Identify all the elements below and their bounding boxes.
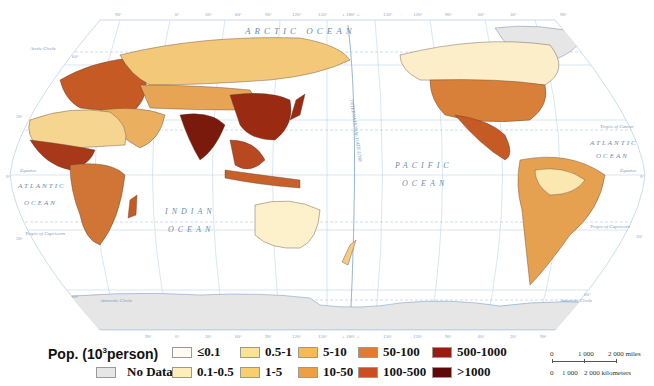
svg-text:120°: 120° [413,12,423,17]
svg-text:60°: 60° [478,334,485,339]
svg-text:± 180° ±: ± 180° ± [342,12,360,17]
svg-text:60°: 60° [235,334,242,339]
svg-text:ARCTIC OCEAN: ARCTIC OCEAN [244,26,356,36]
svg-text:150°: 150° [383,12,393,17]
scale-tick [584,359,585,363]
svg-text:60°: 60° [72,54,79,59]
usa [430,80,546,122]
svg-text:90°: 90° [445,12,452,17]
svg-text:30°: 30° [16,236,23,241]
svg-text:INDIAN: INDIAN [164,207,216,216]
svg-text:Equator: Equator [19,168,36,173]
svg-text:0°: 0° [175,334,180,339]
legend-item: ≤0.1 [172,344,220,360]
svg-text:OCEAN: OCEAN [24,199,57,207]
legend-label: ≤0.1 [197,344,220,360]
legend-label: 500-1000 [457,344,507,360]
scale-tick [552,359,553,363]
svg-text:OCEAN: OCEAN [402,179,448,188]
svg-text:60°: 60° [235,12,242,17]
svg-text:0°: 0° [6,174,11,179]
legend-item: >1000 [432,364,490,380]
svg-text:90°: 90° [115,12,122,17]
svg-text:Tropic of Capricorn: Tropic of Capricorn [25,231,66,236]
legend-label: 0.5-1 [265,344,292,360]
legend-title: Pop. (103person) [48,346,158,362]
legend-swatch [172,347,192,358]
legend-swatch [298,367,318,378]
legend-item: 1-5 [240,364,282,380]
legend-swatch [358,347,378,358]
svg-text:Antarctic Circle: Antarctic Circle [559,298,593,303]
legend-swatch [240,347,260,358]
legend-swatch [432,367,452,378]
svg-text:Arctic Circle: Arctic Circle [29,46,56,51]
legend-item: 0.5-1 [240,344,292,360]
legend-label: 1-5 [265,364,282,380]
legend-item: 50-100 [358,344,420,360]
svg-text:ATLANTIC: ATLANTIC [589,139,638,147]
svg-text:30°: 30° [510,334,517,339]
svg-text:150°: 150° [318,12,328,17]
legend-label: No Data [127,364,173,380]
legend-item-no-data: No Data [96,364,173,380]
svg-text:30°: 30° [510,12,517,17]
svg-text:120°: 120° [292,12,302,17]
svg-text:90°: 90° [540,334,547,339]
svg-text:± 180° ±: ± 180° ± [342,334,360,339]
scale-bar: 0 1 000 2 000 miles 0 1 000 2 000 kilome… [548,350,654,382]
legend-item: 5-10 [298,344,347,360]
legend-swatch [172,367,192,378]
svg-text:OCEAN: OCEAN [168,225,214,234]
legend-label: 0.1-0.5 [197,364,234,380]
svg-text:60°: 60° [72,294,79,299]
legend-label: 5-10 [323,344,347,360]
legend-label: 10-50 [323,364,353,380]
svg-text:90°: 90° [445,334,452,339]
svg-text:60°: 60° [584,292,591,297]
svg-text:ATLANTIC: ATLANTIC [17,182,66,190]
svg-text:Equator: Equator [619,168,636,173]
svg-text:150°: 150° [318,334,328,339]
legend-item: 10-50 [298,364,353,380]
legend-label: 100-500 [383,364,426,380]
svg-text:90°: 90° [265,12,272,17]
svg-text:30°: 30° [636,234,643,239]
svg-text:90°: 90° [265,334,272,339]
svg-text:PACIFIC: PACIFIC [394,161,453,170]
scale-tick [616,359,617,363]
legend-item: 100-500 [358,364,426,380]
svg-text:30°: 30° [205,12,212,17]
svg-text:30°: 30° [205,334,212,339]
legend-swatch [298,347,318,358]
svg-text:30°: 30° [16,114,23,119]
svg-text:90°: 90° [560,12,567,17]
svg-text:Antarctic Circle: Antarctic Circle [99,298,133,303]
legend-item: 0.1-0.5 [172,364,234,380]
legend-swatch [96,367,116,378]
legend-item: 500-1000 [432,344,507,360]
svg-text:OCEAN: OCEAN [596,152,629,160]
legend-swatch [240,367,260,378]
legend-label: >1000 [457,364,490,380]
svg-text:Tropic of Cancer: Tropic of Cancer [600,124,634,129]
legend-label: 50-100 [383,344,420,360]
world-population-map: ARCTIC OCEAN ATLANTIC OCEAN INDIAN OCEAN… [0,0,654,340]
legend-swatch [358,367,378,378]
svg-text:150°: 150° [383,334,393,339]
svg-text:0°: 0° [175,12,180,17]
svg-text:0°: 0° [640,174,645,179]
svg-text:120°: 120° [413,334,423,339]
svg-text:Tropic of Capricorn: Tropic of Capricorn [590,224,631,229]
svg-text:60°: 60° [478,12,485,17]
svg-text:120°: 120° [292,334,302,339]
svg-text:90°: 90° [145,334,152,339]
legend-swatch [432,347,452,358]
